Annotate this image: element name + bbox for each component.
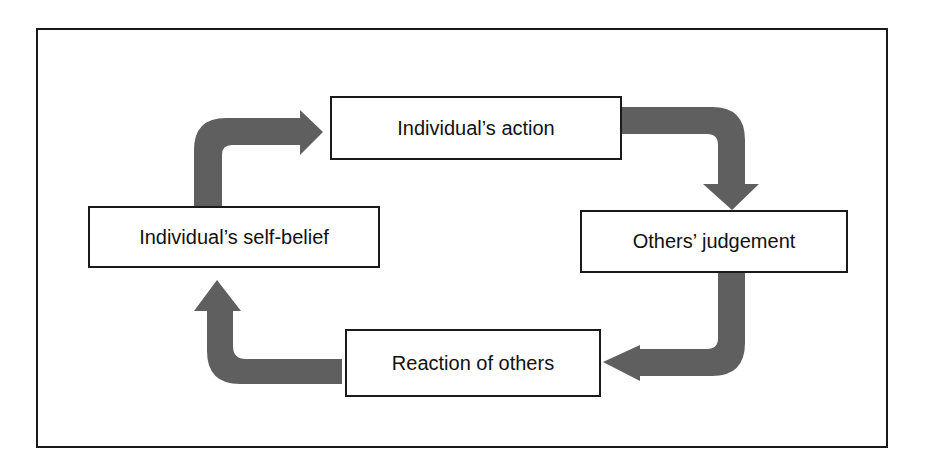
node-individuals-self-belief: Individual’s self-belief bbox=[88, 206, 380, 268]
arrow-self-belief-to-action-icon bbox=[194, 110, 323, 207]
arrow-action-to-judgement-icon bbox=[622, 107, 759, 210]
node-label: Individual’s self-belief bbox=[139, 226, 329, 249]
node-individuals-action: Individual’s action bbox=[330, 96, 622, 160]
node-label: Individual’s action bbox=[397, 117, 555, 140]
node-label: Reaction of others bbox=[392, 352, 554, 375]
node-others-judgement: Others’ judgement bbox=[580, 210, 848, 273]
arrow-reaction-to-self-belief-icon bbox=[194, 280, 342, 384]
node-label: Others’ judgement bbox=[633, 230, 796, 253]
node-reaction-of-others: Reaction of others bbox=[345, 329, 601, 397]
arrow-judgement-to-reaction-icon bbox=[603, 273, 745, 381]
